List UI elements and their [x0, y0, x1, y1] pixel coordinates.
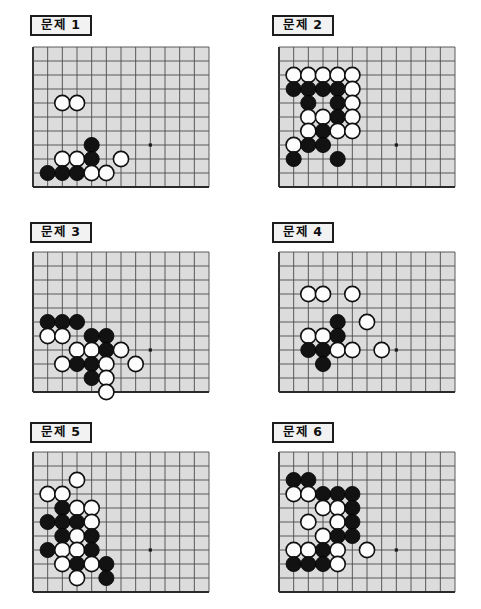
white-stone[interactable] [55, 556, 70, 571]
black-stone[interactable] [330, 109, 345, 124]
problem-5-board[interactable] [33, 452, 209, 592]
white-stone[interactable] [69, 528, 84, 543]
black-stone[interactable] [315, 123, 330, 138]
black-stone[interactable] [315, 486, 330, 501]
white-stone[interactable] [301, 328, 316, 343]
white-stone[interactable] [330, 342, 345, 357]
black-stone[interactable] [55, 500, 70, 515]
black-stone[interactable] [315, 556, 330, 571]
black-stone[interactable] [330, 95, 345, 110]
white-stone[interactable] [345, 342, 360, 357]
white-stone[interactable] [55, 486, 70, 501]
black-stone[interactable] [315, 542, 330, 557]
white-stone[interactable] [359, 542, 374, 557]
black-stone[interactable] [301, 556, 316, 571]
white-stone[interactable] [113, 151, 128, 166]
white-stone[interactable] [345, 123, 360, 138]
black-stone[interactable] [315, 137, 330, 152]
white-stone[interactable] [55, 95, 70, 110]
white-stone[interactable] [315, 109, 330, 124]
problem-6-board[interactable] [279, 452, 455, 592]
white-stone[interactable] [286, 67, 301, 82]
white-stone[interactable] [113, 342, 128, 357]
white-stone[interactable] [55, 542, 70, 557]
black-stone[interactable] [84, 356, 99, 371]
black-stone[interactable] [69, 165, 84, 180]
problem-3-board[interactable] [33, 252, 209, 392]
white-stone[interactable] [69, 342, 84, 357]
white-stone[interactable] [315, 500, 330, 515]
white-stone[interactable] [69, 570, 84, 585]
black-stone[interactable] [84, 528, 99, 543]
black-stone[interactable] [345, 514, 360, 529]
black-stone[interactable] [315, 356, 330, 371]
white-stone[interactable] [315, 286, 330, 301]
white-stone[interactable] [40, 486, 55, 501]
white-stone[interactable] [359, 314, 374, 329]
white-stone[interactable] [69, 472, 84, 487]
black-stone[interactable] [330, 314, 345, 329]
white-stone[interactable] [345, 67, 360, 82]
white-stone[interactable] [84, 556, 99, 571]
black-stone[interactable] [55, 165, 70, 180]
black-stone[interactable] [301, 95, 316, 110]
white-stone[interactable] [301, 109, 316, 124]
black-stone[interactable] [301, 81, 316, 96]
white-stone[interactable] [374, 342, 389, 357]
white-stone[interactable] [286, 542, 301, 557]
black-stone[interactable] [301, 137, 316, 152]
white-stone[interactable] [301, 286, 316, 301]
black-stone[interactable] [40, 314, 55, 329]
white-stone[interactable] [84, 514, 99, 529]
white-stone[interactable] [330, 123, 345, 138]
black-stone[interactable] [40, 165, 55, 180]
black-stone[interactable] [69, 314, 84, 329]
white-stone[interactable] [128, 356, 143, 371]
black-stone[interactable] [99, 556, 114, 571]
black-stone[interactable] [330, 81, 345, 96]
problem-4-board[interactable] [279, 252, 455, 392]
white-stone[interactable] [330, 542, 345, 557]
white-stone[interactable] [99, 165, 114, 180]
white-stone[interactable] [301, 542, 316, 557]
black-stone[interactable] [99, 342, 114, 357]
white-stone[interactable] [84, 342, 99, 357]
white-stone[interactable] [99, 370, 114, 385]
black-stone[interactable] [345, 486, 360, 501]
black-stone[interactable] [84, 151, 99, 166]
white-stone[interactable] [69, 500, 84, 515]
black-stone[interactable] [330, 328, 345, 343]
black-stone[interactable] [69, 356, 84, 371]
white-stone[interactable] [315, 328, 330, 343]
black-stone[interactable] [286, 81, 301, 96]
white-stone[interactable] [99, 356, 114, 371]
white-stone[interactable] [330, 67, 345, 82]
white-stone[interactable] [55, 328, 70, 343]
white-stone[interactable] [55, 356, 70, 371]
white-stone[interactable] [301, 123, 316, 138]
white-stone[interactable] [330, 556, 345, 571]
white-stone[interactable] [315, 67, 330, 82]
problem-2-board[interactable] [279, 47, 455, 187]
white-stone[interactable] [84, 165, 99, 180]
black-stone[interactable] [345, 500, 360, 515]
black-stone[interactable] [84, 370, 99, 385]
white-stone[interactable] [301, 514, 316, 529]
white-stone[interactable] [55, 151, 70, 166]
white-stone[interactable] [99, 384, 114, 399]
black-stone[interactable] [330, 528, 345, 543]
black-stone[interactable] [69, 514, 84, 529]
black-stone[interactable] [330, 151, 345, 166]
black-stone[interactable] [40, 514, 55, 529]
black-stone[interactable] [84, 137, 99, 152]
white-stone[interactable] [315, 528, 330, 543]
white-stone[interactable] [330, 514, 345, 529]
white-stone[interactable] [69, 95, 84, 110]
black-stone[interactable] [345, 528, 360, 543]
black-stone[interactable] [40, 542, 55, 557]
black-stone[interactable] [286, 556, 301, 571]
white-stone[interactable] [345, 109, 360, 124]
black-stone[interactable] [286, 472, 301, 487]
black-stone[interactable] [84, 328, 99, 343]
black-stone[interactable] [55, 314, 70, 329]
